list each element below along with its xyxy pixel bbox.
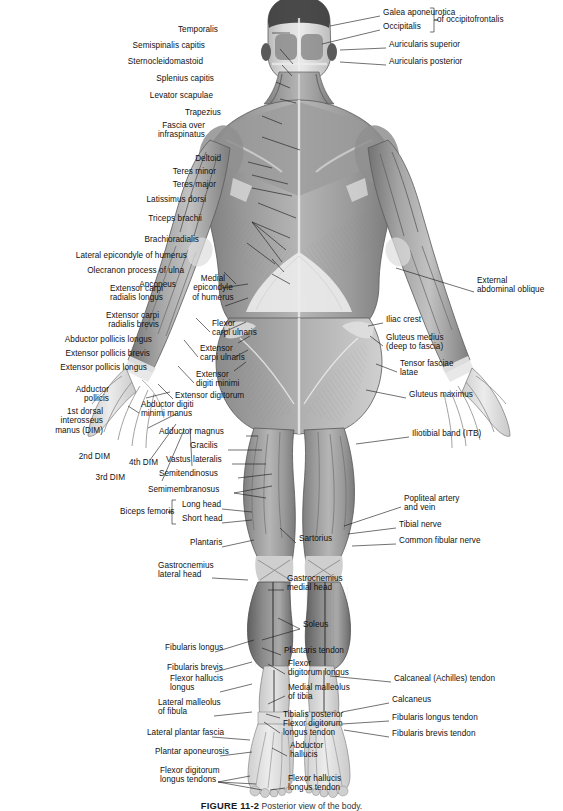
label-abductor-digiti-minimi-manus: Abductor digiti minimi manus — [141, 400, 194, 419]
label-soleus: Soleus — [303, 620, 328, 629]
label-of-occipitofrontalis: of occipitofrontalis — [437, 15, 504, 24]
label-short-head: Short head — [182, 514, 223, 523]
label-flexor-carpi-ulnaris: Flexor carpi ulnaris — [212, 319, 257, 338]
label-popliteal-artery-vein: Popliteal artery and vein — [404, 494, 459, 513]
label-iliac-crest: Iliac crest — [386, 315, 421, 324]
label-abductor-pollicis-longus: Abductor pollicis longus — [65, 335, 152, 344]
label-extensor-carpi-radialis-brevis: Extensor carpi radialis brevis — [106, 311, 159, 330]
label-teres-minor: Teres minor — [173, 167, 216, 176]
label-lateral-epicondyle-humerus: Lateral epicondyle of humerus — [76, 251, 187, 260]
figure-number: FIGURE 11-2 — [201, 800, 259, 811]
label-auricularis-superior: Auricularis superior — [389, 40, 460, 49]
label-lateral-plantar-fascia: Lateral plantar fascia — [147, 728, 224, 737]
label-medial-epicondyle-humerus: Medial epicondyle of humerus — [179, 274, 247, 302]
label-triceps-brachii: Triceps brachii — [148, 214, 202, 223]
label-fascia-over-infraspinatus: Fascia over infraspinatus — [158, 121, 205, 140]
label-adductor-pollicis: Adductor pollicis — [76, 385, 109, 404]
label-calcaneal-achilles-tendon: Calcaneal (Achilles) tendon — [394, 674, 495, 683]
label-olecranon-process-ulna: Olecranon process of ulna — [87, 266, 184, 275]
label-occipitalis: Occipitalis — [383, 22, 421, 31]
label-sartorius: Sartorius — [299, 534, 332, 543]
label-flexor-hallucis-longus-tendon: Flexor hallucis longus tendon — [288, 774, 341, 793]
label-fibularis-longus-tendon: Fibularis longus tendon — [392, 713, 478, 722]
label-gluteus-medius: Gluteus medius (deep to fascia) — [386, 333, 444, 352]
label-adductor-magnus: Adductor magnus — [159, 427, 224, 436]
label-gastrocnemius-medial-head: Gastrocnemius medial head — [287, 574, 343, 593]
label-external-abdominal-oblique: External abdominal oblique — [477, 276, 544, 295]
label-trapezius: Trapezius — [185, 108, 221, 117]
label-semimembranosus: Semimembranosus — [148, 485, 219, 494]
label-flexor-digitorum-longus-tendon: Flexor digitorum longus tendon — [283, 719, 343, 738]
label-flexor-digitorum-longus-tendons: Flexor digitorum longus tendons — [160, 766, 220, 785]
anatomical-figure-posterior-view: TemporalisSemispinalis capitisSternoclei… — [0, 0, 563, 811]
label-teres-major: Teres major — [173, 180, 216, 189]
label-temporalis: Temporalis — [178, 25, 218, 34]
label-sternocleidomastoid: Sternocleidomastoid — [128, 57, 203, 66]
label-extensor-pollicis-brevis: Extensor pollicis brevis — [66, 349, 150, 358]
label-plantaris-tendon: Plantaris tendon — [284, 646, 344, 655]
label-plantaris: Plantaris — [190, 538, 222, 547]
label-fourth-dim: 4th DIM — [129, 458, 158, 467]
label-fibularis-brevis: Fibularis brevis — [167, 663, 223, 672]
figure-caption: FIGURE 11-2 Posterior view of the body. — [0, 800, 563, 811]
label-gluteus-maximus: Gluteus maximus — [409, 390, 473, 399]
head-group — [261, 0, 337, 82]
label-flexor-hallucis-longus: Flexor hallucis longus — [170, 674, 223, 693]
label-tensor-fasciae-latae: Tensor fasciae latae — [400, 359, 454, 378]
label-extensor-pollicis-longus: Extensor pollicis longus — [60, 363, 147, 372]
label-extensor-carpi-radialis-longus: Extensor carpi radialis longus — [110, 284, 163, 303]
label-first-dorsal-interosseus: 1st dorsal interosseus manus (DIM) — [55, 407, 103, 435]
label-fibularis-longus: Fibularis longus — [165, 643, 223, 652]
figure-caption-text: Posterior view of the body. — [262, 801, 363, 811]
label-long-head: Long head — [182, 500, 221, 509]
label-plantar-aponeurosis: Plantar aponeurosis — [155, 747, 229, 756]
label-abductor-hallucis: Abductor hallucis — [290, 741, 323, 760]
label-semitendinosus: Semitendinosus — [159, 469, 218, 478]
label-flexor-digitorum-longus: Flexor digitorum longus — [288, 659, 349, 678]
label-auricularis-posterior: Auricularis posterior — [389, 57, 462, 66]
neck-group — [264, 72, 334, 104]
label-gastrocnemius-lateral-head: Gastrocnemius lateral head — [158, 561, 214, 580]
label-levator-scapulae: Levator scapulae — [150, 91, 213, 100]
label-medial-malleolus-tibia: Medial malleolus of tibia — [288, 683, 350, 702]
label-fibularis-brevis-tendon: Fibularis brevis tendon — [392, 729, 476, 738]
label-semispinalis-capitis: Semispinalis capitis — [133, 41, 205, 50]
label-biceps-femoris-group: Biceps femoris — [120, 507, 174, 516]
label-tibial-nerve: Tibial nerve — [399, 520, 442, 529]
label-brachioradialis: Brachioradialis — [145, 235, 199, 244]
label-third-dim: 3rd DIM — [96, 473, 125, 482]
body-illustration — [0, 0, 563, 811]
label-second-dim: 2nd DIM — [79, 452, 110, 461]
label-extensor-carpi-ulnaris: Extensor carpi ulnaris — [200, 344, 245, 363]
label-lateral-malleolus-fibula: Lateral malleolus of fibula — [158, 698, 221, 717]
label-common-fibular-nerve: Common fibular nerve — [399, 536, 481, 545]
label-gracilis: Gracilis — [190, 441, 218, 450]
label-extensor-digiti-minimi: Extensor digiti minimi — [196, 370, 239, 389]
label-deltoid: Deltoid — [195, 154, 221, 163]
label-vastus-lateralis: Vastus lateralis — [166, 455, 222, 464]
label-calcaneus: Calcaneus — [392, 695, 431, 704]
label-iliotibial-band: Iliotibial band (ITB) — [412, 429, 481, 438]
label-latissimus-dorsi: Latissimus dorsi — [147, 195, 207, 204]
label-splenius-capitis: Splenius capitis — [156, 74, 214, 83]
